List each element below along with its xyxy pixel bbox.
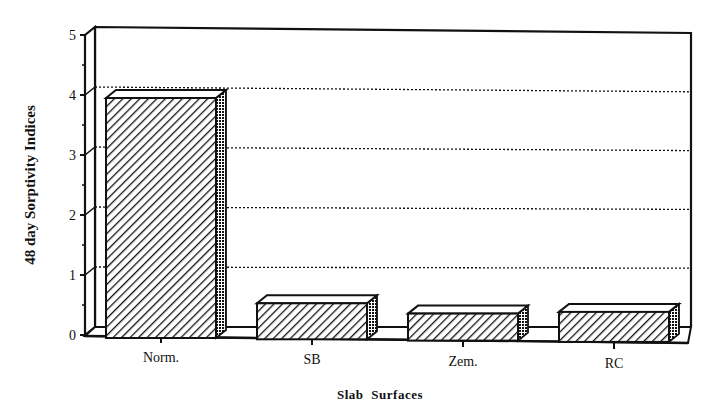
y-tick-label: 3 bbox=[69, 148, 76, 163]
bar-top bbox=[559, 304, 679, 312]
x-tick-label: Zem. bbox=[448, 354, 477, 369]
y-tick-label: 0 bbox=[69, 328, 76, 343]
bar-zem bbox=[408, 314, 518, 341]
bar-top bbox=[106, 90, 226, 98]
y-tick-label: 4 bbox=[69, 88, 76, 103]
x-axis-title: Slab Surfaces bbox=[337, 387, 423, 403]
x-tick-label: SB bbox=[303, 352, 320, 367]
x-tick-label: Norm. bbox=[143, 350, 179, 365]
bar-norm bbox=[106, 98, 216, 338]
bar-top bbox=[257, 295, 377, 303]
side-wall bbox=[85, 27, 95, 335]
y-axis-title: 48 day Sorptivity Indices bbox=[22, 105, 39, 265]
bar-side bbox=[216, 90, 226, 338]
bar-rc bbox=[559, 312, 669, 342]
y-tick-label: 1 bbox=[69, 268, 76, 283]
bar-chart: 012345Norm.SBZem.RC bbox=[0, 0, 727, 408]
y-tick-label: 2 bbox=[69, 208, 76, 223]
bar-sb bbox=[257, 303, 367, 339]
x-tick-label: RC bbox=[605, 356, 624, 371]
bars bbox=[106, 90, 679, 342]
bar-top bbox=[408, 306, 528, 314]
y-tick-label: 5 bbox=[69, 28, 76, 43]
